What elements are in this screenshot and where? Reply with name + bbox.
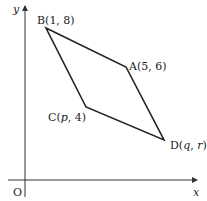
point-d-label: D(q, r) xyxy=(170,139,207,152)
origin-label: O xyxy=(13,186,22,199)
point-d-prefix: D( xyxy=(170,139,183,152)
point-c-label: C(p, 4) xyxy=(48,111,86,124)
point-d-var-q: q xyxy=(183,139,190,152)
x-axis-label: x xyxy=(193,186,200,199)
point-c-prefix: C( xyxy=(48,111,61,124)
point-d-suffix: ) xyxy=(202,139,206,152)
point-b-label: B(1, 8) xyxy=(37,14,75,27)
point-c-var: p xyxy=(61,111,68,124)
y-axis-label: y xyxy=(12,3,20,16)
point-c-suffix: , 4) xyxy=(68,111,86,124)
coordinate-diagram: y x O B(1, 8) A(5, 6) C(p, 4) D(q, r) xyxy=(0,0,207,201)
point-a-label: A(5, 6) xyxy=(128,60,167,73)
point-d-sep: , xyxy=(190,139,197,152)
